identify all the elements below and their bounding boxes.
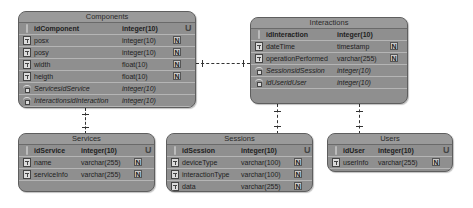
column-row[interactable]: operationPerformed varchar(255) N [251, 53, 407, 65]
column-row[interactable]: userInfo varchar(255) N [328, 157, 452, 169]
primary-key-icon [23, 24, 31, 33]
column-name: name [34, 157, 52, 168]
column-icon [23, 170, 31, 179]
nullable-flag-icon: N [173, 60, 181, 68]
unique-flag-icon: U [443, 145, 450, 156]
primary-key-icon [23, 146, 31, 155]
unique-flag-icon: U [145, 145, 152, 156]
nullable-flag-icon: N [134, 170, 142, 178]
column-row[interactable]: idSession integer(10) U [167, 145, 312, 157]
column-name: SessionsidSession [266, 65, 325, 76]
column-name: idComponent [34, 23, 79, 34]
column-row[interactable]: idUseridUser integer(10) [251, 77, 407, 89]
table-interactions[interactable]: Interactions idInteraction integer(10) d… [250, 17, 408, 104]
column-name: interactionType [182, 169, 229, 180]
column-icon [171, 170, 179, 179]
column-icon [23, 72, 31, 81]
column-type: integer(10) [337, 65, 371, 76]
table-sessions[interactable]: Sessions idSession integer(10) U deviceT… [166, 133, 313, 192]
nullable-flag-icon: N [294, 158, 302, 166]
column-icon [23, 36, 31, 45]
column-type: integer(10) [241, 145, 277, 156]
column-type: integer(10) [122, 95, 156, 106]
column-type: varchar(255) [378, 157, 418, 168]
column-row[interactable]: serviceInfo varchar(255) N [19, 169, 154, 181]
column-name: operationPerformed [266, 53, 328, 64]
column-row[interactable]: interactionType varchar(100) N [167, 169, 312, 181]
column-name: serviceInfo [34, 169, 68, 180]
column-row[interactable]: ServicesidService integer(10) [19, 83, 195, 95]
table-title: Components [19, 12, 195, 23]
foreign-key-icon [255, 66, 263, 75]
table-title: Services [19, 134, 154, 145]
column-row[interactable]: heigth float(10) N [19, 71, 195, 83]
table-users[interactable]: Users idUser integer(10) U userInfo varc… [327, 133, 453, 172]
column-row[interactable]: data varchar(255) N [167, 181, 312, 192]
nullable-flag-icon: N [432, 158, 440, 166]
column-name: posx [34, 35, 49, 46]
column-row[interactable]: posx integer(10) N [19, 35, 195, 47]
nullable-flag-icon: N [390, 42, 398, 50]
column-type: timestamp [337, 41, 369, 52]
column-type: varchar(255) [337, 53, 377, 64]
connector-line [85, 108, 86, 134]
column-type: varchar(255) [81, 169, 121, 180]
column-name: idUseridUser [266, 77, 306, 88]
column-name: ServicesidService [34, 83, 90, 94]
column-row[interactable]: dateTime timestamp N [251, 41, 407, 53]
connector-line [277, 104, 278, 134]
nullable-flag-icon: N [173, 48, 181, 56]
connector-line [196, 63, 250, 64]
nullable-flag-icon: N [390, 54, 398, 62]
column-icon [23, 158, 31, 167]
column-type: integer(10) [122, 35, 156, 46]
column-row[interactable]: InteractionsidInteraction integer(10) [19, 95, 195, 107]
table-components[interactable]: Components idComponent integer(10) U pos… [18, 11, 196, 108]
column-type: float(10) [122, 71, 148, 82]
column-row[interactable]: idInteraction integer(10) [251, 29, 407, 41]
table-services[interactable]: Services idService integer(10) U name va… [18, 133, 155, 192]
column-name: posy [34, 47, 49, 58]
cardinality-mark [274, 126, 281, 127]
column-name: idSession [182, 145, 215, 156]
column-type: varchar(100) [241, 157, 281, 168]
primary-key-icon [332, 146, 340, 155]
column-icon [23, 60, 31, 69]
column-row[interactable]: idComponent integer(10) U [19, 23, 195, 35]
column-row[interactable]: idUser integer(10) U [328, 145, 452, 157]
table-title: Sessions [167, 134, 312, 145]
column-icon [23, 48, 31, 57]
column-icon [171, 182, 179, 191]
column-type: integer(10) [378, 145, 414, 156]
column-row[interactable]: posy integer(10) N [19, 47, 195, 59]
column-type: integer(10) [122, 83, 156, 94]
column-name: idService [34, 145, 65, 156]
column-row[interactable]: deviceType varchar(100) N [167, 157, 312, 169]
cardinality-mark [274, 111, 281, 112]
column-name: width [34, 59, 50, 70]
column-type: float(10) [122, 59, 148, 70]
primary-key-icon [171, 146, 179, 155]
cardinality-mark [82, 127, 89, 128]
column-name: idUser [343, 145, 365, 156]
primary-key-icon [255, 30, 263, 39]
column-row[interactable]: SessionsidSession integer(10) [251, 65, 407, 77]
nullable-flag-icon: N [294, 182, 302, 190]
cardinality-mark [202, 60, 203, 67]
table-title: Users [328, 134, 452, 145]
column-type: varchar(255) [81, 157, 121, 168]
column-type: integer(10) [81, 145, 117, 156]
column-type: integer(10) [122, 47, 156, 58]
column-type: varchar(100) [241, 169, 281, 180]
nullable-flag-icon: N [294, 170, 302, 178]
column-row[interactable]: name varchar(255) N [19, 157, 154, 169]
column-type: varchar(255) [241, 181, 281, 192]
foreign-key-icon [23, 84, 31, 93]
column-icon [332, 158, 340, 167]
connector-line [359, 104, 360, 134]
column-type: integer(10) [122, 23, 158, 34]
column-row[interactable]: idService integer(10) U [19, 145, 154, 157]
foreign-key-icon [255, 78, 263, 87]
nullable-flag-icon: N [134, 158, 142, 166]
column-row[interactable]: width float(10) N [19, 59, 195, 71]
